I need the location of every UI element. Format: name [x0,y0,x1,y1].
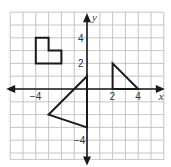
coordinate-plane: x y −42442−4 [0,0,171,167]
x-axis-label: x [158,90,164,102]
y-tick-label: −4 [74,135,86,146]
x-tick-label: −4 [30,91,42,102]
y-tick-label: 4 [78,33,84,44]
y-tick-label: 2 [78,58,84,69]
y-axis-arrow-down-icon [83,156,91,165]
x-tick-label: 4 [135,91,141,102]
y-axis-arrow-up-icon [83,13,91,22]
y-axis-label: y [91,11,97,23]
x-tick-label: 2 [110,91,116,102]
x-axis-arrow-left-icon [6,85,15,93]
axes: x y [6,11,165,165]
